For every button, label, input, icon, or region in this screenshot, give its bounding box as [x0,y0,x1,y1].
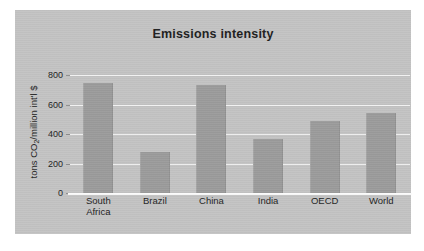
x-tick-label-world: World [349,195,413,206]
x-tick-label-india: India [236,195,300,206]
bar-china[interactable] [196,85,226,193]
bar-slot-india: India [240,75,297,193]
y-tick-label-600: 600 [23,101,63,110]
x-tick-label-south-africa-line2: Africa [86,206,110,217]
bar-slot-south-africa: South Africa [70,75,127,193]
y-axis-title-subscript: 2 [33,140,40,144]
bar-slot-oecd: OECD [296,75,353,193]
x-tick-label-brazil-line1: Brazil [143,195,167,206]
x-tick-label-china-line1: China [199,195,224,206]
chart-panel: Emissions intensity tons CO2/million int… [15,10,411,234]
x-tick-label-brazil: Brazil [123,195,187,206]
plot-area: 800 600 400 200 0 South Africa [70,75,410,193]
x-tick-label-south-africa-line1: South [86,195,111,206]
bar-slot-brazil: Brazil [127,75,184,193]
x-tick-label-india-line1: India [258,195,279,206]
bar-world[interactable] [366,113,396,193]
x-tick-label-china: China [179,195,243,206]
x-tick-label-oecd: OECD [293,195,357,206]
x-tick-label-south-africa: South Africa [66,195,130,217]
x-tick-label-oecd-line1: OECD [311,195,338,206]
bar-slot-world: World [353,75,410,193]
y-tick-label-200: 200 [23,160,63,169]
bar-oecd[interactable] [310,121,340,193]
y-tick-label-800: 800 [23,71,63,80]
bar-slot-china: China [183,75,240,193]
bar-south-africa[interactable] [83,83,113,193]
y-tick-label-400: 400 [23,130,63,139]
bar-india[interactable] [253,139,283,193]
chart-title: Emissions intensity [15,27,411,41]
y-tick-label-0: 0 [23,189,63,198]
x-tick-label-world-line1: World [369,195,394,206]
bar-brazil[interactable] [140,152,170,193]
